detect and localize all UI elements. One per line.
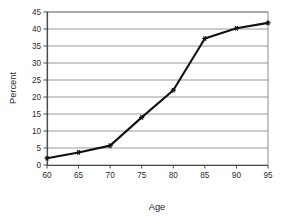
x-tick-label: 95 [263, 171, 273, 180]
x-tick-label: 75 [137, 171, 147, 180]
plot-area-border [47, 12, 268, 165]
x-axis-title: Age [149, 202, 166, 212]
y-tick-label: 35 [32, 42, 42, 51]
x-tick-label: 60 [42, 171, 52, 180]
y-tick-label: 15 [32, 110, 42, 119]
y-tick-label: 30 [32, 59, 42, 68]
y-tick-label: 45 [32, 8, 42, 17]
x-tick-label: 85 [200, 171, 210, 180]
y-tick-label: 40 [32, 25, 42, 34]
line-chart: 051015202530354045 6065707580859095 Age … [0, 0, 283, 217]
x-tick-label: 80 [169, 171, 179, 180]
chart-figure: 051015202530354045 6065707580859095 Age … [0, 0, 283, 217]
y-tick-label: 0 [36, 161, 41, 170]
y-tick-label: 10 [32, 127, 42, 136]
y-tick-label: 20 [32, 93, 42, 102]
y-axis-title: Percent [8, 72, 18, 104]
y-tick-label: 25 [32, 76, 42, 85]
x-tick-label: 90 [232, 171, 242, 180]
x-tick-label: 70 [106, 171, 116, 180]
y-tick-label: 5 [36, 144, 41, 153]
x-tick-label: 65 [74, 171, 84, 180]
